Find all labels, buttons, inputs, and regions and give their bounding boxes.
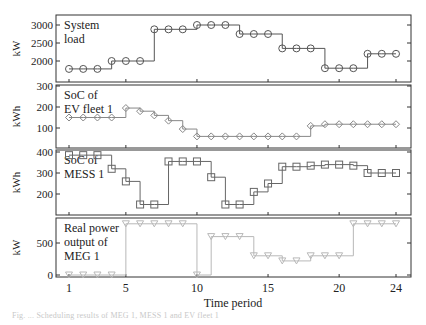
y-tick-label: 300 bbox=[37, 167, 54, 179]
series-line bbox=[69, 25, 396, 69]
panel-label: output of bbox=[64, 235, 108, 249]
y-tick-label: 3000 bbox=[31, 19, 54, 31]
y-tick-label: 200 bbox=[37, 101, 54, 113]
panel-2: 100200300kWhSoC ofEV fleet 1 bbox=[10, 80, 411, 148]
y-axis-label: kWh bbox=[10, 171, 22, 193]
series-line bbox=[69, 108, 396, 136]
y-tick-label: 400 bbox=[37, 146, 54, 158]
panel-frame bbox=[56, 150, 411, 215]
panel-label: SoC of bbox=[64, 88, 98, 102]
y-tick-label: 300 bbox=[37, 80, 54, 92]
x-axis-label: Time period bbox=[204, 296, 263, 310]
figure-caption: Fig. ... Scheduling results of MEG 1, ME… bbox=[12, 311, 219, 320]
y-tick-label: 100 bbox=[37, 122, 54, 134]
panel-3: 200300400kWhSoC ofMESS 1 bbox=[10, 146, 411, 215]
panel-label: System bbox=[64, 18, 100, 32]
multi-panel-step-chart: 200025003000kWSystemload100200300kWhSoC … bbox=[0, 0, 426, 325]
panel-4: 0500kWReal poweroutput ofMEG 1 bbox=[10, 218, 411, 281]
x-tick-label: 10 bbox=[191, 281, 203, 295]
y-tick-label: 0 bbox=[48, 269, 54, 281]
x-tick-label: 24 bbox=[390, 281, 402, 295]
y-axis-label: kWh bbox=[10, 105, 22, 127]
x-tick-label: 1 bbox=[66, 281, 72, 295]
x-tick-label: 5 bbox=[123, 281, 129, 295]
x-tick-label: 20 bbox=[333, 281, 345, 295]
y-axis-label: kW bbox=[10, 40, 22, 57]
y-tick-label: 200 bbox=[37, 188, 54, 200]
series-line bbox=[69, 155, 396, 204]
y-tick-label: 500 bbox=[37, 237, 54, 249]
panel-label: Real power bbox=[64, 221, 119, 235]
y-tick-label: 2500 bbox=[31, 37, 54, 49]
y-axis-label: kW bbox=[10, 239, 22, 256]
panel-label: MESS 1 bbox=[64, 167, 104, 181]
panel-label: MEG 1 bbox=[64, 249, 100, 263]
panel-1: 200025003000kWSystemload bbox=[10, 15, 411, 82]
panel-label: load bbox=[64, 32, 85, 46]
y-tick-label: 2000 bbox=[31, 55, 54, 67]
panel-label: EV fleet 1 bbox=[64, 102, 113, 116]
x-tick-label: 15 bbox=[262, 281, 274, 295]
